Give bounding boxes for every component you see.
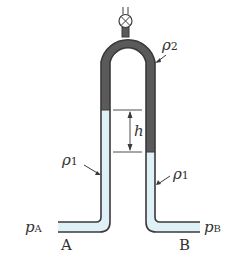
rho2-label: ρ2 [161, 36, 178, 54]
right-fluid-rho1 [146, 152, 200, 232]
pB-label: pB [204, 218, 221, 236]
valve-icon[interactable] [119, 7, 132, 28]
left-fluid-rho1 [58, 110, 110, 232]
tube-walls [58, 40, 200, 232]
pA-label: pA [25, 218, 43, 236]
rho1-right-label: ρ1 [172, 165, 189, 183]
point-B-label: B [179, 236, 190, 254]
point-A-label: A [60, 236, 72, 254]
manometer-diagram: h ρ2 ρ1 ρ1 pA pB A B [0, 0, 249, 275]
valve-stem [122, 27, 129, 37]
h-label: h [134, 122, 144, 140]
rho1-left-label: ρ1 [61, 151, 78, 169]
